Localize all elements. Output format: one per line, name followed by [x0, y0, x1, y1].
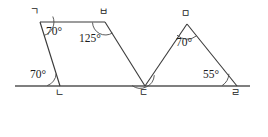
geometry-figure: ㄱ ㅂ ㅁ ㄴ ㄷ ㄹ 70° 125° 70° 70° 55° ( ) 도 — [0, 0, 268, 137]
angle-value-at-b: 125° — [79, 33, 101, 45]
vertex-label-r: ㄹ — [231, 88, 240, 98]
answer-row: ( ) 도 — [0, 104, 268, 137]
angle-value-at-m: 70° — [176, 37, 192, 49]
vertex-label-n: ㄴ — [55, 88, 64, 98]
vertex-label-b: ㅂ — [99, 7, 108, 17]
vertex-label-d: ㄷ — [139, 88, 148, 98]
angle-arc-at-n — [47, 74, 56, 86]
segment-b-d — [105, 22, 145, 86]
vertex-label-m: ㅁ — [181, 9, 190, 19]
vertex-label-g: ㄱ — [30, 7, 39, 17]
angle-value-at-g: 70° — [46, 26, 62, 38]
segment-d-m — [145, 24, 187, 86]
angle-value-at-r: 55° — [203, 69, 219, 81]
angle-arc-at-r — [222, 74, 229, 86]
angle-value-at-n: 70° — [30, 69, 46, 81]
